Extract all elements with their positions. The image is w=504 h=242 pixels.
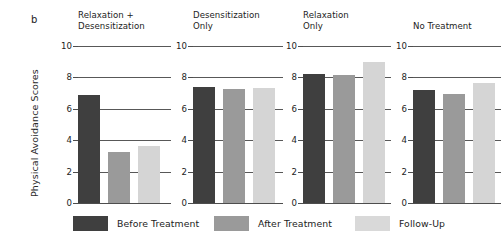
bar-before — [193, 87, 215, 203]
y-tick-label: 2 — [402, 167, 407, 177]
bar-after — [333, 75, 355, 203]
y-tick-label: 0 — [182, 198, 187, 208]
y-tick-label: 4 — [292, 135, 297, 145]
legend-item-followup: Follow-Up — [355, 215, 445, 231]
y-tick-label: 0 — [67, 198, 72, 208]
bar-after — [443, 94, 465, 203]
tick-mark-10 — [188, 46, 193, 47]
facet-3: Relaxation Only0246810 — [285, 0, 381, 212]
y-tick-label: 10 — [286, 41, 297, 51]
y-tick-label: 6 — [292, 104, 297, 114]
legend-label: Before Treatment — [117, 218, 199, 229]
y-tick-label: 10 — [61, 41, 72, 51]
bar-after — [223, 89, 245, 203]
legend-label: Follow-Up — [399, 218, 445, 229]
y-tick-label: 6 — [402, 104, 407, 114]
tick-mark-10 — [298, 46, 303, 47]
legend-swatch-followup — [355, 216, 390, 231]
y-tick-label: 2 — [182, 167, 187, 177]
bar-after — [108, 152, 130, 203]
y-tick-label: 10 — [176, 41, 187, 51]
facet-4: No Treatment0246810 — [395, 0, 491, 212]
gridline-8 — [193, 77, 283, 78]
tick-mark-10 — [408, 46, 413, 47]
tick-mark-0 — [73, 203, 78, 204]
chart-legend: Before TreatmentAfter TreatmentFollow-Up — [0, 215, 504, 239]
bar-before — [413, 90, 435, 203]
bar-before — [78, 95, 100, 203]
y-tick-label: 8 — [182, 72, 187, 82]
bar-followup — [473, 83, 495, 203]
legend-swatch-before — [73, 216, 108, 231]
gridline-0 — [413, 203, 501, 204]
tick-mark-10 — [73, 46, 78, 47]
legend-item-after: After Treatment — [214, 215, 332, 231]
gridline-0 — [193, 203, 283, 204]
tick-mark-0 — [298, 203, 303, 204]
facet-title: No Treatment — [413, 21, 472, 32]
bar-followup — [138, 146, 160, 203]
y-tick-label: 8 — [67, 72, 72, 82]
y-tick-label: 8 — [292, 72, 297, 82]
y-tick-label: 10 — [396, 41, 407, 51]
y-tick-label: 6 — [67, 104, 72, 114]
gridline-0 — [303, 203, 391, 204]
facet-1: Relaxation + Desensitization0246810 — [60, 0, 164, 212]
y-tick-label: 0 — [402, 198, 407, 208]
bar-before — [303, 74, 325, 203]
gridline-8 — [413, 77, 501, 78]
tick-mark-8 — [73, 77, 78, 78]
legend-swatch-after — [214, 216, 249, 231]
y-tick-label: 2 — [67, 167, 72, 177]
plot-area: 0246810 — [193, 46, 283, 203]
figure-panel-b: b Physical Avoidance Scores Relaxation +… — [0, 0, 504, 242]
legend-label: After Treatment — [258, 218, 332, 229]
gridline-10 — [78, 46, 171, 47]
tick-mark-8 — [188, 77, 193, 78]
gridline-10 — [413, 46, 501, 47]
gridline-10 — [303, 46, 391, 47]
gridline-10 — [193, 46, 283, 47]
y-tick-label: 4 — [67, 135, 72, 145]
panel-letter: b — [31, 14, 37, 25]
plot-area: 0246810 — [78, 46, 171, 203]
facet-title: Relaxation + Desensitization — [78, 10, 145, 31]
tick-mark-8 — [408, 77, 413, 78]
bar-followup — [363, 62, 385, 203]
facet-2: Desensitization Only0246810 — [175, 0, 275, 212]
facet-title: Desensitization Only — [193, 10, 260, 31]
gridline-8 — [78, 77, 171, 78]
y-tick-label: 4 — [402, 135, 407, 145]
plot-area: 0246810 — [413, 46, 501, 203]
plot-area: 0246810 — [303, 46, 391, 203]
y-tick-label: 2 — [292, 167, 297, 177]
y-tick-label: 0 — [292, 198, 297, 208]
y-tick-label: 8 — [402, 72, 407, 82]
tick-mark-0 — [188, 203, 193, 204]
facet-title: Relaxation Only — [303, 10, 349, 31]
tick-mark-0 — [408, 203, 413, 204]
gridline-0 — [78, 203, 171, 204]
bar-followup — [253, 88, 275, 203]
y-tick-label: 4 — [182, 135, 187, 145]
y-tick-label: 6 — [182, 104, 187, 114]
y-axis-title: Physical Avoidance Scores — [29, 37, 43, 197]
legend-item-before: Before Treatment — [73, 215, 199, 231]
